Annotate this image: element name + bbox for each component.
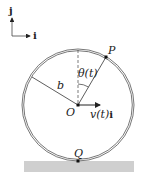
label-velocity-v: v(t) <box>90 108 109 121</box>
i-axis-label: i <box>33 30 37 41</box>
label-b: b <box>57 79 64 92</box>
theta-arc <box>78 84 89 87</box>
point-o <box>77 104 80 107</box>
label-theta: θ(t) <box>78 67 98 80</box>
wheel-diagram: j i P O Q b θ(t) v(t)i <box>0 0 142 177</box>
label-velocity-i: i <box>109 109 113 120</box>
label-q: Q <box>74 147 83 160</box>
radius-op <box>78 57 106 105</box>
axes-icon <box>12 18 30 36</box>
label-velocity: v(t)i <box>90 108 113 121</box>
label-o: O <box>66 106 75 119</box>
radius-b <box>32 77 78 105</box>
label-p: P <box>107 44 116 57</box>
ground <box>24 161 134 172</box>
j-axis-label: j <box>8 5 13 16</box>
